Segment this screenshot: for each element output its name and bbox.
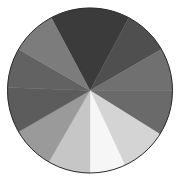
- pie-slices: [7, 8, 172, 173]
- pie-chart: [0, 0, 179, 182]
- pie-chart-svg: [0, 0, 179, 182]
